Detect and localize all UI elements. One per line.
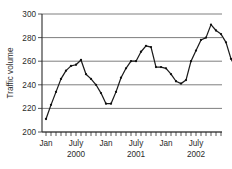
data-point-marker bbox=[200, 39, 202, 41]
gridlines bbox=[42, 14, 222, 132]
x-tick-label-jan-2001: Jan bbox=[99, 139, 113, 148]
x-tick-label-jan-2000: Jan bbox=[39, 139, 53, 148]
x-tick-label-july-2001: July bbox=[129, 139, 144, 148]
data-point-marker bbox=[80, 59, 82, 61]
y-tick-label-280: 280 bbox=[22, 34, 36, 43]
data-point-marker bbox=[130, 60, 132, 62]
y-tick-label-260: 260 bbox=[22, 57, 36, 66]
data-point-marker bbox=[100, 92, 102, 94]
data-point-marker bbox=[140, 51, 142, 53]
data-point-marker bbox=[180, 82, 182, 84]
data-point-marker bbox=[55, 91, 57, 93]
y-tick-label-220: 220 bbox=[22, 104, 36, 113]
data-point-marker bbox=[210, 23, 212, 25]
x-year-label-2001: 2001 bbox=[127, 150, 146, 159]
y-tick-label-300: 300 bbox=[22, 10, 36, 19]
traffic-volume-line bbox=[46, 25, 232, 119]
x-year-label-2000: 2000 bbox=[67, 150, 86, 159]
data-point-marker bbox=[215, 29, 217, 31]
y-axis bbox=[38, 14, 42, 132]
data-point-marker bbox=[45, 118, 47, 120]
y-tick-label-240: 240 bbox=[22, 81, 36, 90]
data-point-marker bbox=[65, 69, 67, 71]
data-point-marker bbox=[125, 67, 127, 69]
data-point-marker bbox=[115, 91, 117, 93]
data-point-marker bbox=[70, 65, 72, 67]
data-point-marker bbox=[190, 60, 192, 62]
data-point-marker bbox=[135, 60, 137, 62]
x-minor-tickmarks bbox=[46, 132, 221, 136]
data-point-marker bbox=[205, 36, 207, 38]
x-tick-label-jan-2002: Jan bbox=[159, 139, 173, 148]
data-point-marker bbox=[220, 33, 222, 35]
x-year-labels: 2000 2001 2002 bbox=[67, 150, 206, 159]
data-point-marker bbox=[145, 45, 147, 47]
x-tick-labels: Jan July Jan July Jan July bbox=[39, 139, 204, 148]
data-point-marker bbox=[170, 73, 172, 75]
data-point-marker bbox=[105, 103, 107, 105]
traffic-volume-chart: 300 280 260 240 220 200 Jan July Jan Jul… bbox=[0, 0, 232, 169]
data-point-marker bbox=[225, 41, 227, 43]
chart-canvas: 300 280 260 240 220 200 Jan July Jan Jul… bbox=[0, 0, 232, 169]
data-point-marker bbox=[150, 46, 152, 48]
x-axis bbox=[42, 132, 222, 136]
y-axis-title: Traffic volume bbox=[6, 47, 15, 98]
data-point-marker bbox=[95, 84, 97, 86]
data-point-marker bbox=[110, 103, 112, 105]
x-year-label-2002: 2002 bbox=[187, 150, 206, 159]
data-point-marker bbox=[160, 66, 162, 68]
data-point-marker bbox=[85, 73, 87, 75]
x-tick-label-july-2002: July bbox=[189, 139, 204, 148]
data-point-marker bbox=[195, 49, 197, 51]
data-point-marker bbox=[90, 78, 92, 80]
data-point-marker bbox=[155, 66, 157, 68]
data-point-marker bbox=[175, 80, 177, 82]
data-point-marker bbox=[60, 78, 62, 80]
data-point-marker bbox=[165, 67, 167, 69]
data-point-marker bbox=[75, 64, 77, 66]
y-tick-labels: 300 280 260 240 220 200 bbox=[22, 10, 36, 137]
data-point-marker bbox=[50, 104, 52, 106]
x-tick-label-july-2000: July bbox=[69, 139, 84, 148]
data-point-marker bbox=[120, 77, 122, 79]
y-tick-label-200: 200 bbox=[22, 128, 36, 137]
data-point-marker bbox=[185, 79, 187, 81]
